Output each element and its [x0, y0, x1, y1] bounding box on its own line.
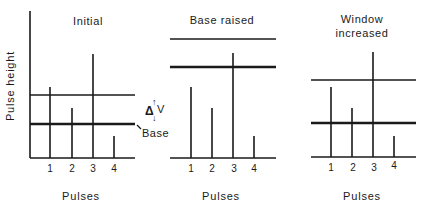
tick-label: 2: [69, 163, 75, 174]
tick-label: 4: [111, 163, 117, 174]
x-axis-label: Pulses: [343, 190, 381, 202]
panel-title: Initial: [73, 15, 103, 27]
tick-label: 3: [231, 163, 237, 174]
panel-window-increased: Window increased 1 2 3 4 Pulses: [311, 13, 416, 202]
tick-label: 1: [328, 162, 334, 173]
up-arrow-icon: ↑: [152, 97, 157, 107]
tick-label: 3: [371, 162, 377, 173]
diagram-canvas: Pulse height Initial 1 2 3 4 Pulses Δ ↑ …: [0, 0, 424, 208]
tick-label: 1: [47, 163, 53, 174]
x-axis-label: Pulses: [62, 190, 100, 202]
tick-label: 3: [90, 163, 96, 174]
tick-label: 4: [251, 163, 257, 174]
panel-title-line2: increased: [335, 27, 388, 39]
base-label: Base: [142, 127, 169, 139]
tick-label: 2: [350, 162, 356, 173]
panel-base-raised: Base raised 1 2 3 4 Pulses: [170, 14, 276, 202]
y-axis-label: Pulse height: [4, 51, 16, 121]
tick-label: 2: [209, 163, 215, 174]
tick-label: 1: [188, 163, 194, 174]
tick-label: 4: [391, 160, 397, 171]
down-arrow-icon: ↓: [152, 113, 157, 123]
panel-title: Base raised: [190, 14, 255, 26]
base-pointer-icon: [137, 125, 141, 129]
delta-v-label: V: [157, 103, 165, 115]
panel-title-line1: Window: [341, 13, 384, 25]
panel-initial: Initial 1 2 3 4 Pulses: [30, 11, 135, 202]
x-axis-label: Pulses: [202, 190, 240, 202]
delta-v-annotation: Δ ↑ V ↓ Base: [137, 97, 169, 139]
